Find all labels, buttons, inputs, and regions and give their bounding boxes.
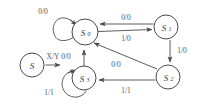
transition-s0-self-label: 0/0 xyxy=(38,7,48,16)
transition-s2-to-s0: 0/0 xyxy=(94,43,157,69)
transition-s0-to-s1-path xyxy=(98,30,152,32)
state-machine-diagram: S X/Y 0/0 0/0 1/0 1/0 0/0 xyxy=(0,0,198,111)
legend-arrow-label: X/Y xyxy=(47,52,61,61)
state-node-s2-label: S xyxy=(164,73,169,83)
state-node-s0[interactable]: S 0 xyxy=(72,19,98,45)
transition-s2-to-s0-label: 0/0 xyxy=(111,60,121,69)
transition-s3-to-s0-label: 0/0 xyxy=(61,52,71,61)
transition-s0-to-s1: 1/0 xyxy=(98,30,152,43)
transition-s3-to-s0: 0/0 xyxy=(61,50,84,66)
state-node-s1[interactable]: S 1 xyxy=(154,15,178,39)
state-node-s3-subscript: 3 xyxy=(86,77,90,83)
state-node-s1-subscript: 1 xyxy=(169,26,172,32)
transition-s3-self-label: 1/1 xyxy=(44,88,54,97)
legend-group: S X/Y xyxy=(20,52,60,78)
transition-s1-to-s2-label: 1/0 xyxy=(177,46,187,55)
transition-s1-to-s2: 1/0 xyxy=(170,40,187,62)
transition-s0-self: 0/0 xyxy=(38,7,77,41)
state-node-s1-label: S xyxy=(162,23,167,33)
transition-s1-to-s0-label: 0/0 xyxy=(121,13,131,22)
transition-s1-to-s0: 0/0 xyxy=(100,13,154,25)
state-node-s0-label: S xyxy=(81,28,86,38)
fsm-canvas: S X/Y 0/0 0/0 1/0 1/0 0/0 xyxy=(0,0,198,111)
state-node-s3[interactable]: S 3 xyxy=(72,66,96,90)
state-node-s2[interactable]: S 2 xyxy=(156,65,180,89)
transition-s2-to-s3-label: 1/1 xyxy=(121,86,131,95)
transition-s0-to-s1-label: 1/0 xyxy=(121,34,131,43)
legend-state-label: S xyxy=(30,61,35,71)
state-node-s2-subscript: 2 xyxy=(171,76,174,82)
transition-s2-to-s3: 1/1 xyxy=(99,80,156,95)
state-node-s3-label: S xyxy=(80,74,85,84)
transition-s2-to-s0-path xyxy=(94,43,157,69)
state-node-s0-subscript: 0 xyxy=(88,31,91,37)
